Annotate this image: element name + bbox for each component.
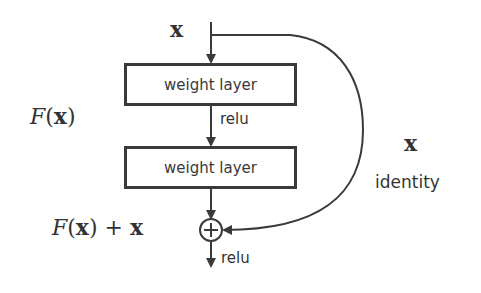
weight-layer-2: weight layer [124, 146, 297, 189]
residual-block-diagram: x weight layer relu weight layer F(x) F(… [0, 0, 481, 293]
script-f: F [30, 104, 45, 129]
residual-function-label: F(x) [30, 103, 76, 129]
weight-layer-2-label: weight layer [164, 159, 257, 177]
paren-close: ) [67, 104, 76, 129]
shortcut-var-label: x [404, 130, 417, 156]
script-f: F [52, 215, 67, 240]
sum-label: F(x) + x [52, 214, 143, 240]
paren-open: ( [67, 215, 76, 240]
plus-sign: + [98, 215, 130, 240]
weight-layer-1: weight layer [124, 63, 297, 106]
var-x2: x [130, 214, 143, 240]
paren-open: ( [45, 104, 54, 129]
relu-label-2: relu [221, 249, 250, 267]
relu-label-1: relu [220, 110, 249, 128]
input-label: x [170, 16, 183, 42]
var-x: x [54, 103, 67, 129]
var-x: x [76, 214, 89, 240]
weight-layer-1-label: weight layer [164, 76, 257, 94]
paren-close: ) [89, 215, 98, 240]
identity-label: identity [375, 172, 440, 192]
